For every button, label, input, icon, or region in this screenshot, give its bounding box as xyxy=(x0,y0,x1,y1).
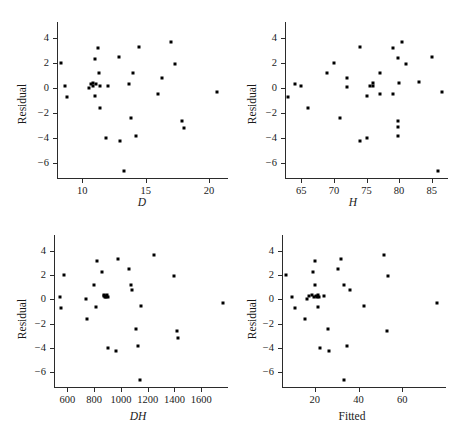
y-tick xyxy=(278,275,282,276)
plot-area-dh: 420−2−4−66008001000120014001600 xyxy=(0,215,232,444)
data-point xyxy=(340,258,343,261)
data-point xyxy=(339,117,342,120)
data-point xyxy=(326,327,329,330)
y-tick xyxy=(50,251,54,252)
data-point xyxy=(63,84,66,87)
data-point xyxy=(95,259,98,262)
x-tick xyxy=(359,388,360,392)
x-tick xyxy=(367,179,368,183)
data-point xyxy=(96,47,99,50)
data-point xyxy=(345,77,348,80)
data-point xyxy=(101,270,104,273)
data-point xyxy=(398,82,401,85)
data-point xyxy=(59,62,62,65)
x-axis-line xyxy=(282,387,446,388)
data-point xyxy=(300,84,303,87)
y-axis-line xyxy=(57,22,58,178)
panel-residual-vs-d: Residual 420−2−4−6101520 D xyxy=(0,0,232,215)
data-point xyxy=(137,344,140,347)
data-point xyxy=(128,83,131,86)
y-tick-label: −2 xyxy=(22,319,46,330)
plot-area-d: 420−2−4−6101520 xyxy=(0,0,232,215)
data-point xyxy=(114,349,117,352)
y-tick-label: 0 xyxy=(22,294,46,305)
data-point xyxy=(105,137,108,140)
y-tick xyxy=(53,113,57,114)
data-point xyxy=(84,298,87,301)
y-tick xyxy=(281,38,285,39)
y-tick-label: 4 xyxy=(250,246,274,257)
y-axis-line xyxy=(54,235,55,387)
data-point xyxy=(311,270,314,273)
data-point xyxy=(173,63,176,66)
data-point xyxy=(116,258,119,261)
data-point xyxy=(319,347,322,350)
y-tick-label: −2 xyxy=(253,108,277,119)
data-point xyxy=(417,80,420,83)
data-point xyxy=(99,84,102,87)
y-tick-label: −6 xyxy=(22,367,46,378)
data-point xyxy=(215,90,218,93)
data-point xyxy=(322,294,325,297)
y-tick xyxy=(53,163,57,164)
y-tick xyxy=(281,138,285,139)
data-point xyxy=(290,296,293,299)
data-point xyxy=(131,288,134,291)
x-tick xyxy=(334,179,335,183)
data-point xyxy=(328,349,331,352)
data-point xyxy=(391,93,394,96)
y-axis-line xyxy=(282,235,283,387)
x-tick-label: 1600 xyxy=(191,395,212,406)
data-point xyxy=(365,137,368,140)
data-point xyxy=(99,107,102,110)
data-point xyxy=(118,55,121,58)
y-tick-label: 2 xyxy=(22,270,46,281)
data-point xyxy=(326,72,329,75)
y-tick-label: 0 xyxy=(253,83,277,94)
data-point xyxy=(313,283,316,286)
data-point xyxy=(397,134,400,137)
x-tick xyxy=(174,388,175,392)
data-point xyxy=(157,93,160,96)
x-axis-label-dh: DH xyxy=(130,410,147,422)
data-point xyxy=(134,134,137,137)
data-point xyxy=(363,304,366,307)
data-point xyxy=(176,330,179,333)
y-tick xyxy=(53,88,57,89)
data-point xyxy=(440,90,443,93)
x-tick-label: 40 xyxy=(353,395,364,406)
data-point xyxy=(85,317,88,320)
y-tick xyxy=(53,138,57,139)
x-tick xyxy=(209,179,210,183)
data-point xyxy=(386,330,389,333)
x-tick xyxy=(402,388,403,392)
data-point xyxy=(359,139,362,142)
y-tick-label: 2 xyxy=(25,58,49,69)
data-point xyxy=(107,296,110,299)
data-point xyxy=(343,283,346,286)
y-tick xyxy=(281,88,285,89)
x-tick-label: 60 xyxy=(397,395,408,406)
x-axis-label-h: H xyxy=(349,196,357,208)
x-tick-label: 75 xyxy=(361,186,372,197)
data-point xyxy=(336,268,339,271)
data-point xyxy=(345,344,348,347)
data-point xyxy=(382,253,385,256)
data-point xyxy=(294,307,297,310)
data-point xyxy=(285,274,288,277)
x-tick-label: 65 xyxy=(296,186,307,197)
y-tick xyxy=(278,372,282,373)
x-tick-label: 15 xyxy=(140,186,151,197)
data-point xyxy=(140,304,143,307)
x-tick xyxy=(82,179,83,183)
x-tick xyxy=(121,388,122,392)
residual-plot-figure: Residual 420−2−4−6101520 D Residual 420−… xyxy=(0,0,453,444)
x-tick-label: 70 xyxy=(329,186,340,197)
panel-residual-vs-dh: Residual 420−2−4−66008001000120014001600… xyxy=(0,215,232,444)
y-tick-label: 2 xyxy=(253,58,277,69)
data-point xyxy=(95,305,98,308)
y-tick-label: −4 xyxy=(253,133,277,144)
data-point xyxy=(138,46,141,49)
x-tick-label: 800 xyxy=(86,395,102,406)
y-tick-label: −2 xyxy=(250,319,274,330)
